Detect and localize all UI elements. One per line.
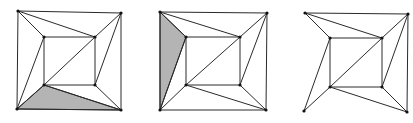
graph-vertex: [238, 83, 241, 86]
graph-vertex: [42, 83, 45, 86]
graph-vertex: [265, 11, 268, 14]
graph-edge: [240, 13, 267, 85]
graph-vertex: [303, 11, 306, 14]
graph-edge: [160, 12, 267, 13]
graph-edge: [18, 11, 121, 13]
shaded-face: [160, 12, 186, 110]
graph-edge: [186, 37, 240, 85]
graph-vertex: [238, 35, 241, 38]
graph-edge: [266, 13, 267, 110]
graph-vertex: [328, 36, 331, 39]
graph-edge: [18, 11, 95, 37]
graph-vertex: [119, 108, 122, 111]
graph-vertex: [93, 83, 96, 86]
graph-vertex: [328, 85, 331, 88]
graph-vertex: [184, 83, 187, 86]
graph-vertex: [406, 12, 409, 15]
panel-3-graph: [302, 11, 409, 113]
graph-edge: [44, 37, 95, 85]
graph-vertex: [119, 11, 122, 14]
graph-edge: [407, 14, 408, 112]
graph-edge: [305, 13, 382, 38]
graph-edge: [95, 13, 121, 85]
graph-vertex: [15, 107, 18, 110]
graph-figure: [0, 0, 413, 123]
graph-edge: [382, 14, 408, 87]
shaded-face: [17, 85, 121, 110]
graph-edge: [304, 38, 330, 111]
graph-vertex: [380, 85, 383, 88]
graph-vertex: [264, 108, 267, 111]
graph-vertex: [93, 35, 96, 38]
graph-vertex: [16, 9, 19, 12]
graph-edge: [330, 38, 382, 87]
graph-vertex: [42, 35, 45, 38]
graph-edge: [305, 13, 408, 14]
panel-2-graph: [158, 10, 268, 111]
graph-vertex: [184, 35, 187, 38]
panel-1-graph: [15, 9, 122, 111]
graph-edge: [17, 11, 18, 109]
graph-vertex: [380, 36, 383, 39]
graph-edge: [186, 85, 266, 110]
graph-vertex: [158, 10, 161, 13]
graph-vertex: [158, 108, 161, 111]
graph-edge: [330, 87, 407, 112]
graph-vertex: [302, 109, 305, 112]
graph-vertex: [405, 110, 408, 113]
